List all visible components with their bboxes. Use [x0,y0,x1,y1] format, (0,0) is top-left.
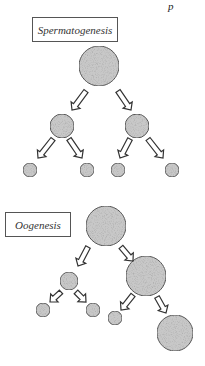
oogenesis-cells [36,206,193,351]
arrow-icon [116,90,132,110]
oo-ovum-cell [157,315,193,351]
arrow-icon [118,138,132,158]
arrow-icon [71,90,88,111]
arrow-icon [146,138,164,159]
sp-spermatid-2-cell [80,163,94,177]
arrow-icon [121,293,136,310]
oo-secondary-oocyte-cell [126,256,166,296]
sp-spermatid-4-cell [165,163,179,177]
arrow-icon [76,246,90,266]
oo-polar-body-2a-cell [36,303,50,317]
oo-polar-body-2c-cell [108,311,122,325]
arrow-icon [37,138,55,159]
oo-polar-body-1-cell [60,272,78,290]
arrow-icon [119,245,133,261]
arrow-icon [155,296,168,313]
gametogenesis-diagram [0,0,205,366]
sp-spermatid-3-cell [111,163,125,177]
sp-spermatid-1-cell [23,163,37,177]
sp-secondary-left-cell [50,114,74,138]
sp-primary-cell [79,46,119,86]
sp-secondary-right-cell [125,114,149,138]
arrow-icon [67,138,83,158]
arrow-icon [74,290,86,302]
oo-polar-body-2b-cell [86,303,100,317]
arrow-icon [50,290,63,302]
oo-primary-cell [86,206,126,246]
